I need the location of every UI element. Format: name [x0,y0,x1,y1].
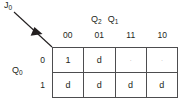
column-header-01: 01 [84,29,116,42]
column-variable-q1: Q1 [108,15,119,24]
kmap-grid: 1 d · · d d d d [52,47,178,98]
row-variable-label: Q0 [12,66,23,75]
row-variable-name: Q [12,65,19,75]
column-variables-label: Q2 Q1 [91,15,124,24]
row-header-0: 0 [36,47,49,73]
kmap-cell: · [115,48,146,72]
row-header-1: 1 [36,73,49,99]
row-variable-subscript: 0 [19,69,23,76]
column-header-row: 00 01 11 10 [52,29,178,42]
kmap-row: d d d d [53,72,177,97]
column-variable-q1-name: Q [108,14,115,24]
column-header-00: 00 [52,29,84,42]
output-function-subscript: 0 [9,4,13,11]
karnaugh-map-figure: J0 Q2 Q1 00 01 11 10 Q0 0 1 1 d · · d d … [0,0,183,109]
column-header-11: 11 [115,29,147,42]
output-function-name: J [4,0,9,10]
column-header-10: 10 [147,29,179,42]
column-variable-q2-name: Q [91,14,98,24]
kmap-cell: 1 [53,48,83,72]
kmap-cell: d [83,48,114,72]
kmap-cell: d [115,73,146,97]
kmap-cell: · [146,48,177,72]
output-function-label: J0 [4,1,12,10]
kmap-cell: d [146,73,177,97]
row-header-column: 0 1 [36,47,49,98]
column-variable-q2: Q2 [91,15,102,24]
kmap-cell: d [83,73,114,97]
kmap-cell: d [53,73,83,97]
kmap-row: 1 d · · [53,48,177,72]
column-variable-q1-subscript: 1 [115,18,119,25]
column-variable-q2-subscript: 2 [98,18,102,25]
